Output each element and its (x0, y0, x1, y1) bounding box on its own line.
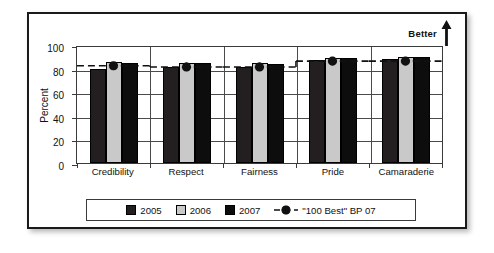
y-axis-tick-label: 40 (53, 113, 64, 124)
bar-2005[interactable] (382, 59, 398, 163)
plot-area: 020406080100 (76, 46, 443, 164)
bar-2005[interactable] (90, 69, 106, 163)
bar-set (223, 47, 296, 163)
bar-group (150, 47, 223, 163)
bar-set (369, 47, 442, 163)
bar-2006[interactable] (106, 62, 122, 163)
x-axis-label: Respect (149, 166, 222, 177)
chart-legend: 200520062007"100 Best" BP 07 (86, 199, 416, 221)
y-axis-tick-label: 60 (53, 90, 64, 101)
y-axis-tick-label: 20 (53, 137, 64, 148)
x-axis-label: Camaraderie (370, 166, 443, 177)
legend-swatch (126, 205, 136, 215)
bar-group (77, 47, 150, 163)
better-annotation: Better (408, 20, 452, 46)
bar-2006[interactable] (179, 63, 195, 163)
y-axis-title-text: Percent (39, 88, 50, 122)
bar-2006[interactable] (398, 57, 414, 163)
x-axis-label: Pride (296, 166, 369, 177)
legend-item[interactable]: 2007 (225, 205, 260, 216)
bar-2005[interactable] (309, 60, 325, 163)
bar-2006[interactable] (252, 63, 268, 163)
legend-item[interactable]: 2005 (126, 205, 161, 216)
bar-set (296, 47, 369, 163)
bar-2007[interactable] (414, 57, 430, 163)
chart-frame: Better Percent 020406080100 CredibilityR… (27, 12, 467, 229)
x-axis-label: Credibility (76, 166, 149, 177)
y-axis-tick-label: 100 (47, 43, 64, 54)
bar-groups (77, 47, 442, 163)
bar-2007[interactable] (195, 63, 211, 163)
bar-2005[interactable] (163, 67, 179, 163)
legend-label: "100 Best" BP 07 (302, 205, 375, 216)
bar-group (369, 47, 442, 163)
bar-2006[interactable] (325, 58, 341, 163)
bar-2007[interactable] (341, 58, 357, 163)
bar-2007[interactable] (268, 64, 284, 163)
y-axis-tick-label: 0 (58, 161, 64, 172)
legend-label: 2007 (239, 205, 260, 216)
legend-swatch (225, 205, 235, 215)
legend-star-icon (274, 204, 298, 216)
up-arrow-icon (441, 20, 452, 46)
y-axis-title: Percent (37, 46, 51, 164)
legend-item[interactable]: 2006 (176, 205, 211, 216)
legend-item[interactable]: "100 Best" BP 07 (274, 204, 375, 216)
y-axis-tick-label: 80 (53, 66, 64, 77)
bar-set (77, 47, 150, 163)
bar-2007[interactable] (122, 63, 138, 163)
bar-group (296, 47, 369, 163)
bar-2005[interactable] (236, 67, 252, 163)
x-axis-labels: CredibilityRespectFairnessPrideCamarader… (76, 166, 443, 177)
better-label: Better (408, 28, 437, 39)
bar-group (223, 47, 296, 163)
chart-figure: Better Percent 020406080100 CredibilityR… (0, 0, 494, 253)
legend-label: 2006 (190, 205, 211, 216)
x-axis-label: Fairness (223, 166, 296, 177)
bar-set (150, 47, 223, 163)
legend-label: 2005 (140, 205, 161, 216)
legend-swatch (176, 205, 186, 215)
